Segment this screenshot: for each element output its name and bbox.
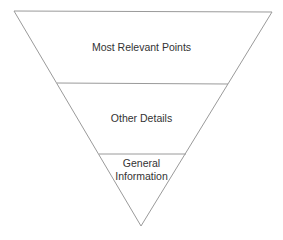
divider-top: [57, 83, 228, 84]
level-other-details: Other Details: [0, 112, 283, 125]
level-general-information-line1: General: [0, 157, 283, 170]
level-most-relevant-points: Most Relevant Points: [0, 41, 283, 54]
level-general-information: General Information: [0, 157, 283, 183]
level-general-information-line2: Information: [0, 170, 283, 183]
